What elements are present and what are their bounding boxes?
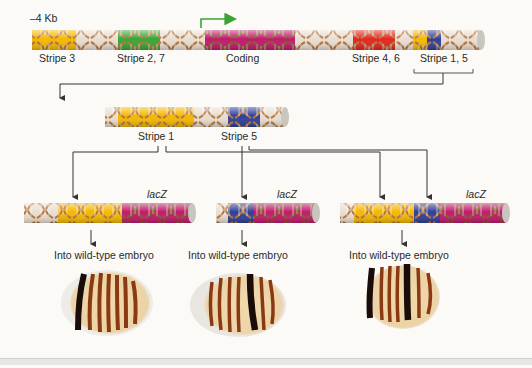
connector-stripe5-to-reporter3 [249,146,427,197]
reporter-construct-1 [24,203,196,244]
reporter-1-caption: Into wild-type embryo [54,249,154,261]
label-stripe3: Stripe 3 [39,52,75,64]
embryo-3 [366,264,440,329]
connector-stripe1-to-reporter1 [73,146,158,197]
embryo-1 [61,270,153,336]
middle-construct [73,107,427,197]
connector-stripe1-to-reporter3 [166,146,380,197]
stripe15-bracket [414,69,473,73]
label-stripe1-mid: Stripe 1 [138,130,174,142]
reporter-2-caption: Into wild-type embryo [188,249,288,261]
reporter-2-lacz-label: lacZ [277,188,297,200]
reporter-1-lacz-label: lacZ [147,188,167,200]
reporter-construct-3 [340,203,510,244]
label-stripe46: Stripe 4, 6 [352,52,400,64]
label-stripe5-mid: Stripe 5 [221,130,257,142]
transcription-start-arrow-icon [201,19,234,28]
embryo-2 [190,273,286,337]
scale-label: –4 Kb [30,12,57,24]
reporter-3-caption: Into wild-type embryo [349,249,449,261]
reporter-construct-2 [216,203,320,244]
label-stripe27: Stripe 2, 7 [117,52,165,64]
label-coding: Coding [226,52,259,64]
reporter-3-lacz-label: lacZ [466,188,486,200]
connector-top-to-middle [60,73,443,98]
bottom-edge [0,358,532,365]
label-stripe15: Stripe 1, 5 [420,52,468,64]
